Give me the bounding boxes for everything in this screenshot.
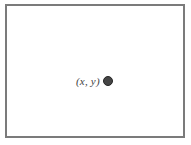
point-dot-icon [103,76,113,86]
point-label: (x, y) [76,74,100,88]
labeled-point: (x, y) [76,74,113,88]
plane-rectangle: (x, y) [5,4,185,138]
